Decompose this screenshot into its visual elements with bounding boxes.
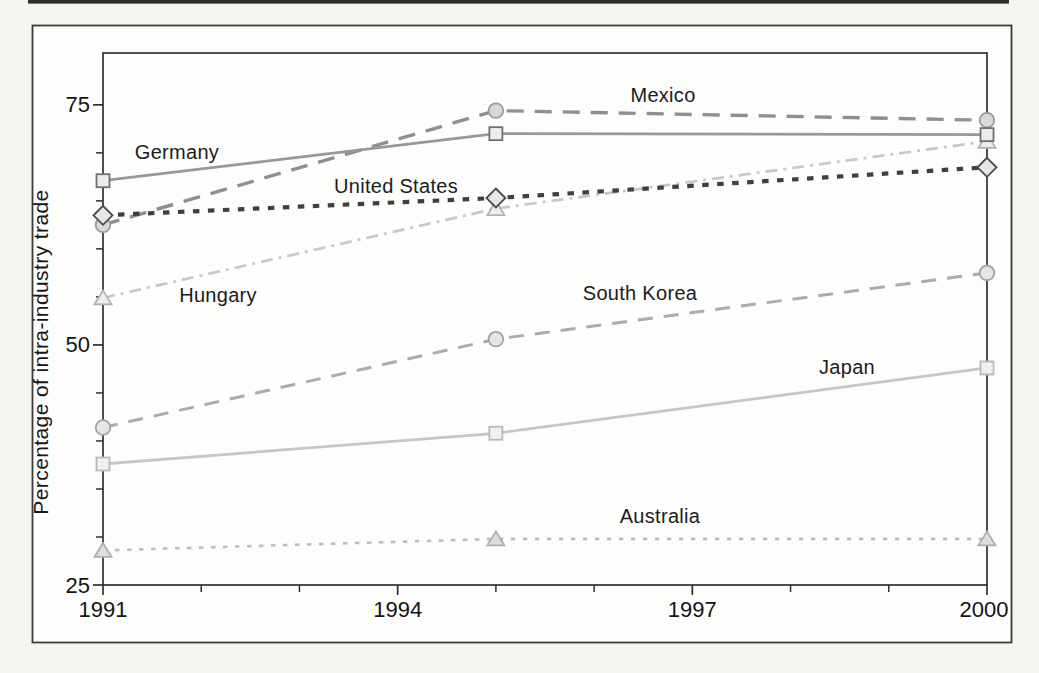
y-tick-label-25: 25: [66, 573, 90, 598]
marker-germany-1995: [489, 127, 502, 140]
y-tick-label-75: 75: [66, 92, 90, 117]
x-tick-label-1991: 1991: [79, 597, 128, 622]
x-tick-label-1994: 1994: [373, 597, 422, 622]
y-axis-title: Percentage of intra-industry trade: [29, 189, 52, 514]
series-label-germany: Germany: [135, 141, 219, 163]
x-tick-label-2000: 2000: [960, 597, 1009, 622]
series-label-japan: Japan: [819, 356, 875, 378]
marker-mexico-2000: [980, 113, 995, 128]
marker-south-korea-2000: [980, 266, 995, 281]
series-label-mexico: Mexico: [630, 84, 695, 106]
y-tick-label-50: 50: [66, 332, 90, 357]
marker-japan-2000: [981, 361, 994, 374]
marker-mexico-1995: [489, 103, 504, 118]
x-tick-label-1997: 1997: [668, 597, 717, 622]
series-label-australia: Australia: [620, 505, 701, 527]
series-label-united-states: United States: [334, 175, 458, 197]
marker-germany-2000: [981, 128, 994, 141]
series-label-south-korea: South Korea: [583, 282, 698, 304]
figure-border: [33, 26, 1012, 643]
marker-germany-1991: [97, 174, 110, 187]
marker-south-korea-1995: [489, 332, 504, 347]
marker-south-korea-1991: [96, 420, 111, 435]
series-label-hungary: Hungary: [179, 284, 257, 306]
marker-japan-1995: [489, 427, 502, 440]
page: 2550751991199419972000AustraliaJapanSout…: [0, 0, 1039, 673]
marker-japan-1991: [97, 458, 110, 471]
intra-industry-trade-line-chart: 2550751991199419972000AustraliaJapanSout…: [0, 0, 1039, 673]
top-rule: [28, 0, 1009, 4]
